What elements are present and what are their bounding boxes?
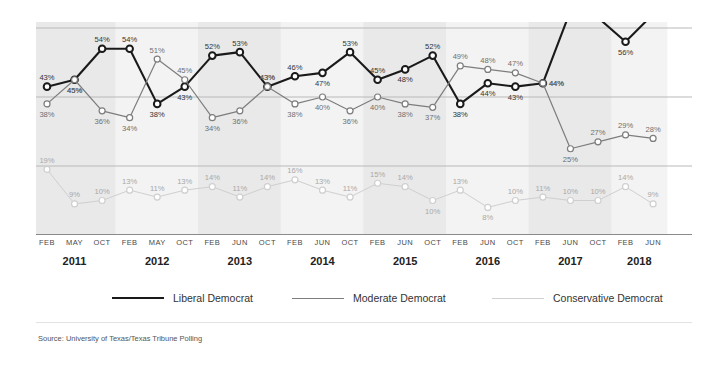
data-point bbox=[402, 101, 408, 107]
data-point bbox=[72, 77, 78, 83]
data-point bbox=[512, 198, 518, 204]
legend-item[interactable]: Liberal Democrat bbox=[112, 292, 253, 304]
data-label: 11% bbox=[150, 184, 165, 193]
data-point bbox=[623, 132, 629, 138]
data-point bbox=[72, 201, 78, 207]
data-point bbox=[319, 70, 326, 77]
data-point bbox=[595, 139, 601, 145]
data-point bbox=[292, 177, 298, 183]
data-label: 14% bbox=[205, 173, 220, 182]
legend-item[interactable]: Moderate Democrat bbox=[292, 292, 446, 304]
data-label: 52% bbox=[205, 42, 220, 51]
data-label: 19% bbox=[39, 156, 54, 165]
data-point bbox=[209, 184, 215, 190]
legend-line-swatch bbox=[492, 298, 544, 299]
data-point bbox=[181, 83, 188, 90]
data-label: 16% bbox=[287, 166, 302, 175]
data-label: 14% bbox=[398, 173, 413, 182]
chart-svg: 43%45%54%54%38%43%52%53%43%46%47%53%45%4… bbox=[36, 22, 692, 234]
data-label: 10% bbox=[563, 187, 578, 196]
data-label: 34% bbox=[205, 124, 220, 133]
data-label: 46% bbox=[287, 63, 302, 72]
data-point bbox=[512, 83, 519, 90]
source-note: Source: University of Texas/Texas Tribun… bbox=[38, 334, 202, 343]
data-point bbox=[44, 101, 50, 107]
data-point bbox=[127, 115, 133, 121]
data-point bbox=[429, 52, 436, 59]
data-label: 10% bbox=[590, 187, 605, 196]
data-point bbox=[485, 66, 491, 72]
data-point bbox=[182, 77, 188, 83]
data-label: 47% bbox=[315, 79, 330, 88]
data-point bbox=[374, 76, 381, 83]
data-label: 44% bbox=[480, 89, 495, 98]
data-label: 40% bbox=[315, 103, 330, 112]
source-divider bbox=[36, 322, 692, 323]
legend-label: Moderate Democrat bbox=[353, 292, 446, 304]
x-year-label: 2012 bbox=[117, 255, 197, 267]
data-point bbox=[485, 80, 492, 87]
x-year-label: 2018 bbox=[599, 255, 679, 267]
data-label: 38% bbox=[39, 110, 54, 119]
data-label: 54% bbox=[122, 35, 137, 44]
data-label: 45% bbox=[67, 86, 82, 95]
data-point bbox=[126, 45, 133, 52]
data-point bbox=[44, 166, 50, 172]
data-point bbox=[567, 198, 573, 204]
data-label: 48% bbox=[480, 56, 495, 65]
data-label: 38% bbox=[287, 110, 302, 119]
data-label: 53% bbox=[232, 39, 247, 48]
legend-line-swatch bbox=[292, 298, 344, 299]
chart-legend: Liberal DemocratModerate DemocratConserv… bbox=[0, 292, 720, 314]
data-point bbox=[375, 180, 381, 186]
data-point bbox=[650, 201, 656, 207]
data-point bbox=[457, 187, 463, 193]
data-point bbox=[320, 187, 326, 193]
x-year-label: 2011 bbox=[35, 255, 115, 267]
data-point bbox=[567, 146, 573, 152]
data-label: 13% bbox=[315, 177, 330, 186]
data-label: 43% bbox=[508, 93, 523, 102]
data-point bbox=[595, 198, 601, 204]
chart-root: 43%45%54%54%38%43%52%53%43%46%47%53%45%4… bbox=[0, 0, 720, 373]
legend-item[interactable]: Conservative Democrat bbox=[492, 292, 663, 304]
data-label: 48% bbox=[398, 75, 413, 84]
data-label: 43% bbox=[177, 93, 192, 102]
data-label: 36% bbox=[94, 117, 109, 126]
data-label: 13% bbox=[177, 177, 192, 186]
data-label: 37% bbox=[425, 113, 440, 122]
data-label: 43% bbox=[260, 73, 275, 82]
data-point bbox=[402, 184, 408, 190]
data-point bbox=[622, 39, 629, 46]
data-label: 38% bbox=[453, 110, 468, 119]
x-axis-line bbox=[36, 234, 692, 235]
data-point bbox=[320, 94, 326, 100]
data-label: 44% bbox=[549, 79, 564, 88]
data-point bbox=[99, 108, 105, 114]
data-label: 51% bbox=[150, 46, 165, 55]
data-point bbox=[99, 198, 105, 204]
data-point bbox=[540, 194, 546, 200]
data-point bbox=[457, 63, 463, 69]
legend-line-swatch bbox=[112, 297, 164, 299]
data-label: 54% bbox=[94, 35, 109, 44]
data-point bbox=[209, 115, 215, 121]
data-label: 34% bbox=[122, 124, 137, 133]
data-label: 14% bbox=[260, 173, 275, 182]
data-point bbox=[650, 135, 656, 141]
data-point bbox=[99, 45, 106, 52]
data-point bbox=[430, 104, 436, 110]
data-point bbox=[237, 194, 243, 200]
data-point bbox=[209, 52, 216, 59]
data-point bbox=[347, 108, 353, 114]
data-point bbox=[44, 83, 51, 90]
data-label: 38% bbox=[150, 110, 165, 119]
data-point bbox=[264, 184, 270, 190]
x-year-label: 2015 bbox=[365, 255, 445, 267]
data-label: 47% bbox=[508, 59, 523, 68]
data-point bbox=[264, 84, 270, 90]
data-label: 27% bbox=[590, 128, 605, 137]
data-point bbox=[154, 101, 161, 108]
data-point bbox=[127, 187, 133, 193]
data-label: 56% bbox=[618, 48, 633, 57]
